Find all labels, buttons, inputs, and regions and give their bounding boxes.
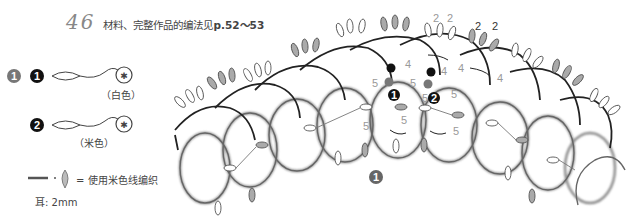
svg-text:5: 5 <box>372 77 378 89</box>
svg-text:5: 5 <box>401 114 407 126</box>
svg-text:5: 5 <box>422 92 428 104</box>
stitch-count-labels-dark: 2 2 <box>475 20 498 32</box>
tatting-diagram: 1 1 ✱ 2 ✱ <box>0 0 629 220</box>
svg-text:5: 5 <box>453 125 459 137</box>
svg-text:2: 2 <box>431 92 437 104</box>
shuttle-2-color: （米色） <box>74 135 114 150</box>
svg-text:2: 2 <box>433 12 439 24</box>
beige-ring-outlines <box>180 82 625 205</box>
svg-text:1: 1 <box>391 89 397 101</box>
svg-text:1: 1 <box>373 171 379 183</box>
legend-shuttle-icons: 1 1 ✱ 2 ✱ <box>7 67 132 188</box>
svg-text:2: 2 <box>492 20 498 32</box>
svg-text:2: 2 <box>34 119 40 131</box>
svg-text:5: 5 <box>451 88 457 100</box>
svg-text:2: 2 <box>447 12 453 24</box>
svg-text:2: 2 <box>475 20 481 32</box>
svg-text:4: 4 <box>441 65 447 77</box>
svg-text:1: 1 <box>11 70 17 82</box>
svg-text:4: 4 <box>497 72 503 84</box>
picot-note: 耳: 2mm <box>35 194 77 209</box>
svg-text:✱: ✱ <box>120 120 128 130</box>
svg-text:5: 5 <box>410 77 416 89</box>
svg-text:✱: ✱ <box>120 71 128 81</box>
svg-text:4: 4 <box>458 62 464 74</box>
round-marker: 1 <box>369 170 383 184</box>
line-note: = 使用米色线编织 <box>76 172 158 187</box>
svg-text:4: 4 <box>405 58 411 70</box>
svg-text:1: 1 <box>34 70 40 82</box>
svg-text:5: 5 <box>363 120 369 132</box>
shuttle-1-color: （白色） <box>101 87 141 102</box>
